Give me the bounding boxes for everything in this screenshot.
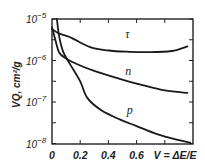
- y-tick-labels: 10−510−610−710−8: [26, 11, 47, 150]
- x-tick-label: 0.4: [101, 149, 116, 161]
- x-tick-label: 0.2: [73, 149, 88, 161]
- x-tick-label: 0: [49, 149, 55, 161]
- y-tick-label: 10−8: [26, 136, 47, 150]
- curve-labels: τnp: [125, 27, 132, 117]
- curve-label-n: n: [125, 64, 131, 78]
- y-axis-title: VQ, cm²/g: [11, 61, 22, 108]
- x-axis-title: V = ΔE/E: [154, 149, 198, 161]
- curve-label-p: p: [126, 103, 133, 117]
- y-tick-label: 10−7: [26, 94, 47, 108]
- curve-tau: [52, 29, 187, 52]
- x-axis-ticks: [80, 19, 165, 144]
- y-tick-label: 10−5: [26, 11, 47, 25]
- chart: τnp 00.20.40.6V = ΔE/E 10−510−610−710−8 …: [0, 0, 205, 166]
- curve-label-tau: τ: [125, 27, 130, 41]
- x-tick-label: 0.6: [129, 149, 144, 161]
- curve-n: [52, 27, 187, 93]
- data-curves: [52, 19, 190, 143]
- y-tick-label: 10−6: [26, 53, 47, 67]
- x-tick-labels: 00.20.40.6V = ΔE/E: [49, 149, 197, 161]
